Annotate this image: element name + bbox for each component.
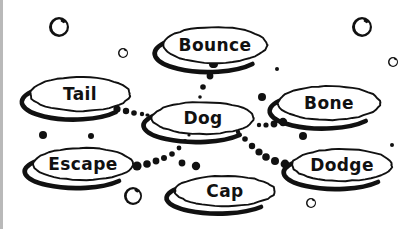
node-escape[interactable]: Escape — [25, 148, 134, 188]
node-dodge[interactable]: Dodge — [284, 149, 393, 189]
diagram-canvas: BounceTailDogBoneEscapeDodgeCap — [0, 0, 420, 229]
deco-dot-upper-left-icon — [118, 48, 128, 58]
decoration-dot — [275, 67, 279, 71]
link-dot — [271, 157, 279, 165]
deco-dot-right-of-bounce-icon — [275, 67, 279, 71]
deco-sphere-bottom-left-icon — [124, 187, 142, 205]
link-tail-dog — [113, 105, 149, 116]
deco-dot-bottom-right-icon — [306, 198, 316, 208]
decoration-dot — [258, 93, 266, 101]
decoration-dot — [299, 132, 307, 140]
link-dot — [140, 112, 144, 116]
node-label-dog: Dog — [183, 108, 222, 128]
deco-dot-near-dodge-top-icon — [299, 132, 307, 140]
link-dot — [255, 148, 262, 155]
link-dog-dodge — [236, 130, 290, 169]
link-dot — [161, 155, 167, 161]
nodes-layer: BounceTailDogBoneEscapeDodgeCap — [22, 27, 392, 213]
link-dot — [263, 122, 268, 127]
concept-map-svg: BounceTailDogBoneEscapeDodgeCap — [0, 0, 420, 229]
node-label-bone: Bone — [304, 93, 354, 113]
deco-sphere-top-left-icon — [49, 17, 69, 37]
decoration-dot — [39, 131, 47, 139]
link-dot — [131, 110, 137, 116]
node-cap[interactable]: Cap — [166, 176, 274, 214]
deco-dot-upper-right-icon — [388, 57, 398, 67]
link-dot — [242, 136, 248, 142]
link-escape-cap — [179, 160, 201, 171]
deco-sphere-top-right-icon — [352, 17, 372, 37]
link-dot — [262, 153, 270, 161]
deco-dot-left-of-bone-icon — [258, 93, 266, 101]
deco-dot-mid-left-b-icon — [88, 133, 94, 139]
link-bounce-dog — [198, 60, 217, 99]
link-dot — [192, 162, 200, 170]
node-label-cap: Cap — [206, 181, 243, 201]
link-dot — [169, 151, 175, 157]
decoration-dot — [88, 133, 94, 139]
node-label-dodge: Dodge — [310, 155, 374, 175]
link-dot — [249, 143, 255, 149]
deco-dot-mid-left-a-icon — [39, 131, 47, 139]
link-dot — [177, 146, 182, 151]
node-label-tail: Tail — [63, 84, 97, 104]
link-dot — [179, 160, 186, 167]
link-dot — [153, 158, 160, 165]
left-edge-bar — [0, 0, 3, 229]
decoration-dot — [390, 143, 394, 147]
link-dot — [257, 123, 261, 127]
link-dot — [200, 84, 206, 90]
link-dot — [198, 95, 202, 99]
deco-dot-far-right-icon — [390, 143, 394, 147]
link-dot — [143, 160, 151, 168]
page-edge-bar — [0, 0, 3, 229]
node-bone[interactable]: Bone — [270, 86, 381, 129]
node-label-bounce: Bounce — [179, 35, 252, 55]
node-dog[interactable]: Dog — [143, 102, 253, 142]
link-dot — [123, 108, 129, 114]
node-label-escape: Escape — [48, 154, 117, 174]
node-tail[interactable]: Tail — [22, 77, 130, 120]
